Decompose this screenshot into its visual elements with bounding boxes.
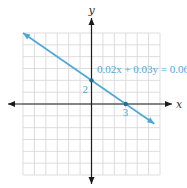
intercept-label: 2 [83, 83, 89, 95]
equation-label: 0.02x + 0.03y = 0.06 [97, 63, 187, 75]
y-axis-arrow-up [89, 18, 95, 25]
series [23, 33, 154, 124]
y-axis-label: y [88, 4, 96, 17]
series-arrow-start [23, 33, 30, 39]
y-axis-arrow-down [89, 177, 95, 184]
intercept-point [89, 78, 93, 82]
points: 23 [83, 78, 129, 118]
intercept-label: 3 [123, 106, 129, 118]
axes [8, 18, 172, 184]
chart: 23 x y 0.02x + 0.03y = 0.06 [0, 0, 187, 188]
x-axis-arrow-left [8, 101, 15, 107]
x-axis-label: x [176, 98, 183, 111]
series-line [23, 33, 154, 124]
x-axis-arrow-right [165, 101, 172, 107]
series-arrow-end [147, 117, 154, 123]
